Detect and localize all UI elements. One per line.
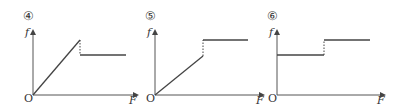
origin-label: O <box>24 92 33 105</box>
panel-6: ⑥ f O F <box>267 9 385 107</box>
panel-4: ④ f O F <box>23 9 137 107</box>
panel-number-label: ⑥ <box>267 9 278 23</box>
y-axis-label: f <box>268 26 275 39</box>
panel-5: ⑤ f O F <box>145 9 264 107</box>
x-axis-label: F <box>376 94 385 107</box>
y-axis-label: f <box>24 26 31 39</box>
panel-number-label: ⑤ <box>145 9 156 23</box>
origin-label: O <box>268 92 277 105</box>
origin-label: O <box>146 92 155 105</box>
rising-segment <box>33 40 80 95</box>
y-axis-label: f <box>146 26 153 39</box>
x-axis-label: F <box>255 94 264 107</box>
panel-number-label: ④ <box>23 9 34 23</box>
graphs-diagram: ④ f O F ⑤ f O F ⑥ f O F <box>0 0 406 111</box>
rising-segment <box>155 56 203 95</box>
x-axis-label: F <box>128 94 137 107</box>
